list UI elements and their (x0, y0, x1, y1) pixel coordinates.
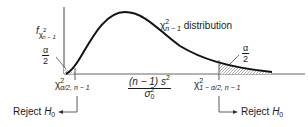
statistic-fraction: (n − 1) s2 σ20 (128, 77, 171, 100)
sup: 2 (151, 86, 155, 93)
two: 2 (43, 56, 48, 66)
reject-right-label: Reject H0 (241, 107, 283, 117)
sub: 0 (51, 111, 55, 118)
sup: 2 (60, 77, 64, 84)
alpha: α (42, 45, 49, 56)
reject-text: Reject (13, 106, 44, 117)
left-critical-label: χ2α/2, n − 1 (55, 80, 90, 90)
two: 2 (243, 54, 248, 64)
statistic-denominator: σ20 (145, 89, 155, 100)
reject-left-label: Reject H0 (13, 107, 55, 117)
sup: 2 (43, 27, 46, 33)
y-axis-label: fχ2n − 1 (36, 26, 56, 36)
sub: n − 1 (42, 34, 56, 40)
alpha-half-fraction: α 2 (242, 43, 249, 64)
reject-left-arrow-line (62, 96, 77, 112)
sub: 1 − α/2, n − 1 (199, 84, 240, 91)
right-tail-alpha-label: α 2 (242, 43, 249, 64)
sub: 0 (279, 111, 283, 118)
right-critical-label: χ21 − α/2, n − 1 (194, 80, 241, 90)
chi-subscript: χ2n − 1 (39, 30, 56, 39)
curve-label: χ2n − 1 distribution (160, 21, 232, 31)
sub: n − 1 (165, 25, 181, 32)
left-tail-alpha-label: α 2 (42, 45, 49, 66)
alpha: α (242, 43, 249, 54)
sub: α/2, n − 1 (60, 84, 89, 91)
numerator-text: (n − 1) s (129, 76, 166, 87)
reject-text: Reject (241, 106, 272, 117)
reject-right-arrow-line (219, 96, 234, 112)
sup: 2 (199, 77, 203, 84)
reject-right-arrowhead (233, 110, 238, 114)
test-statistic: (n − 1) s2 σ20 (128, 77, 171, 100)
right-alpha-leader (228, 55, 239, 66)
alpha-half-fraction: α 2 (42, 45, 49, 66)
reject-left-arrowhead (58, 110, 63, 114)
sub: 0 (150, 93, 154, 100)
distribution-text: distribution (181, 20, 232, 31)
sup: 2 (166, 74, 170, 81)
sup: 2 (165, 18, 169, 25)
